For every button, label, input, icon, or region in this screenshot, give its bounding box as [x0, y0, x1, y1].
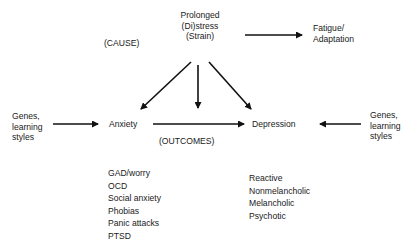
- genes-left-line-1: Genes,: [12, 111, 43, 122]
- genes-right-line-1: Genes,: [370, 110, 401, 121]
- genes-left-node: Genes, learning styles: [12, 111, 43, 143]
- arrow-cause-to-depression: [209, 62, 251, 109]
- depression-subtype: Psychotic: [249, 210, 310, 223]
- genes-left-line-2: learning: [12, 122, 43, 133]
- anxiety-subtype: PTSD: [108, 230, 161, 243]
- genes-right-line-3: styles: [370, 131, 401, 142]
- genes-right-line-2: learning: [370, 121, 401, 132]
- cause-node: Prolonged (Di)stress (Strain): [172, 10, 228, 42]
- anxiety-subtype: Phobias: [108, 205, 161, 218]
- depression-subtype: Reactive: [249, 172, 310, 185]
- anxiety-subtype: Social anxiety: [108, 192, 161, 205]
- fatigue-node: Fatigue/ Adaptation: [313, 23, 354, 44]
- depression-subtype: Melancholic: [249, 197, 310, 210]
- anxiety-subtype: OCD: [108, 180, 161, 193]
- anxiety-node: Anxiety: [109, 119, 137, 130]
- outcomes-label: (OUTCOMES): [159, 136, 214, 147]
- fatigue-node-line-2: Adaptation: [313, 34, 354, 45]
- genes-left-line-3: styles: [12, 132, 43, 143]
- depression-node: Depression: [252, 119, 295, 130]
- anxiety-subtypes-list: GAD/worry OCD Social anxiety Phobias Pan…: [108, 167, 161, 243]
- fatigue-node-line-1: Fatigue/: [313, 23, 354, 34]
- cause-node-line-2: (Di)stress: [172, 21, 228, 32]
- arrow-cause-to-anxiety: [141, 62, 191, 109]
- anxiety-subtype: Panic attacks: [108, 217, 161, 230]
- depression-subtypes-list: Reactive Nonmelancholic Melancholic Psyc…: [249, 172, 310, 222]
- cause-node-line-1: Prolonged: [172, 10, 228, 21]
- anxiety-subtype: GAD/worry: [108, 167, 161, 180]
- cause-node-line-3: (Strain): [172, 31, 228, 42]
- genes-right-node: Genes, learning styles: [370, 110, 401, 142]
- cause-label: (CAUSE): [104, 38, 139, 49]
- depression-subtype: Nonmelancholic: [249, 185, 310, 198]
